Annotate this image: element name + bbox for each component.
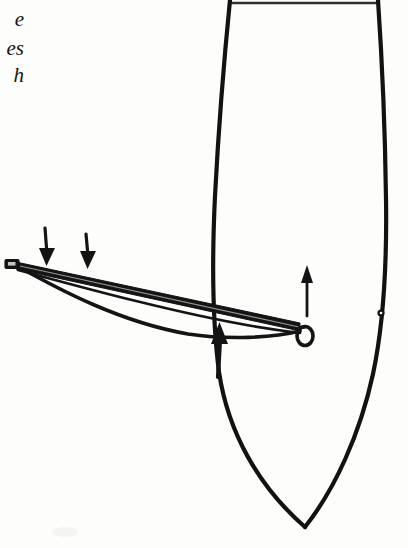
- bow-stave-lower-edge: [18, 270, 300, 333]
- caption-line: es: [0, 38, 46, 59]
- rivet-dot-icon: [377, 309, 384, 316]
- line-drawing-figure: [0, 0, 408, 548]
- hull-outline: [213, 0, 386, 527]
- caption-fragments: e es h: [0, 0, 46, 108]
- arrow-down-left-icon: [39, 228, 55, 266]
- caption-line: e: [0, 9, 46, 30]
- arrow-down-middle-icon: [80, 234, 96, 269]
- caption-line: h: [0, 65, 46, 86]
- bow-assembly: [5, 260, 313, 346]
- nock-tip: [5, 260, 19, 269]
- ring-loop: [297, 327, 313, 346]
- bow-stave-inner-line: [20, 266, 299, 327]
- arrow-up-hull-icon: [301, 265, 313, 316]
- figure-page: e es h: [0, 0, 408, 548]
- page-scan-smudge: [52, 527, 78, 537]
